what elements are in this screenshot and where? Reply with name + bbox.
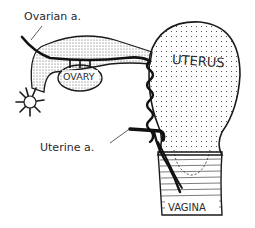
- ovary: OVARY: [58, 65, 102, 91]
- female-reproductive-arteries-diagram: UTERUS OVARY Ovarian a. Uterine a. VAGIN…: [0, 0, 255, 228]
- uterine-artery-leader: [110, 130, 128, 143]
- uterine-artery-label: Uterine a.: [40, 141, 94, 154]
- ovarian-artery-label: Ovarian a.: [24, 10, 81, 23]
- ovary-label: OVARY: [63, 71, 95, 82]
- vagina-label: VAGINA: [168, 202, 206, 213]
- ovarian-artery-leader: [31, 26, 42, 40]
